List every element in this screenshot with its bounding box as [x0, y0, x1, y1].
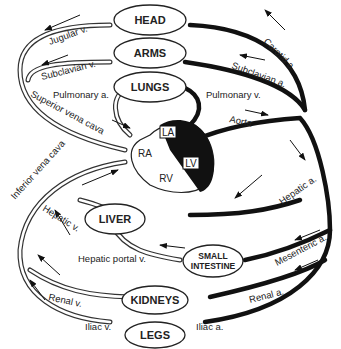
organ-legs-label: LEGS [140, 329, 170, 341]
circulatory-diagram: LA LV RA RV HEAD ARMS LUNGS LIVER SMALL … [0, 0, 341, 349]
organ-legs: LEGS [125, 322, 185, 348]
organ-small-intestine-label-1: SMALL [198, 251, 227, 261]
organ-head: HEAD [114, 5, 186, 35]
carotid-artery-label: Carotid a. [262, 36, 299, 73]
organ-lungs: LUNGS [114, 72, 186, 102]
organ-kidneys: KIDNEYS [122, 286, 188, 314]
heart-rv-label: RV [159, 173, 173, 184]
organ-head-label: HEAD [134, 14, 165, 26]
hepatic-vein-label: Hepatic v. [41, 202, 82, 233]
heart-la-label: LA [162, 127, 175, 138]
iliac-vein-label: Iliac v. [85, 321, 111, 332]
organ-small-intestine-label-2: INTESTINE [191, 261, 236, 271]
organ-kidneys-label: KIDNEYS [131, 294, 180, 306]
pulmonary-vein-label: Pulmonary v. [206, 89, 261, 100]
iliac-artery-label: Iliac a. [196, 321, 223, 332]
organ-liver: LIVER [85, 204, 145, 234]
organ-small-intestine: SMALL INTESTINE [183, 245, 243, 277]
organ-lungs-label: LUNGS [131, 81, 170, 93]
organ-liver-label: LIVER [99, 213, 131, 225]
hepatic-portal-vein-label: Hepatic portal v. [78, 253, 146, 264]
heart-ra-label: RA [138, 148, 152, 159]
inferior-vena-cava-label: Inferior vena cava [8, 137, 67, 201]
heart: LA LV RA RV [131, 120, 214, 193]
organ-arms-label: ARMS [134, 47, 166, 59]
heart-lv-label: LV [185, 158, 197, 169]
pulmonary-artery-label: Pulmonary a. [53, 89, 109, 100]
organ-arms: ARMS [114, 38, 186, 68]
